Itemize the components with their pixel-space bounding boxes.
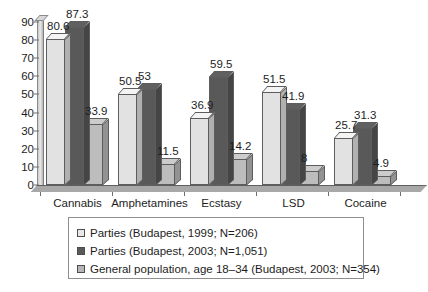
chart-legend: Parties (Budapest, 1999; N=206) Parties … bbox=[68, 217, 364, 279]
bar-side-face bbox=[372, 123, 378, 185]
bar-value-label: 50.5 bbox=[119, 75, 141, 87]
y-axis-tick-mark bbox=[34, 76, 39, 77]
bar-side-face bbox=[353, 133, 359, 185]
legend-item-parties-2003: Parties (Budapest, 2003; N=1,051) bbox=[77, 242, 363, 259]
bar bbox=[334, 138, 353, 185]
y-axis-tick-mark bbox=[34, 58, 39, 59]
bar-front-face bbox=[262, 92, 281, 185]
bar-side-face bbox=[228, 72, 234, 185]
bar-front-face bbox=[190, 118, 209, 185]
bar bbox=[190, 118, 209, 185]
bar-side-face bbox=[137, 88, 143, 185]
legend-label-1: Parties (Budapest, 1999; N=206) bbox=[90, 227, 258, 239]
x-axis-category-label: Cocaine bbox=[306, 197, 426, 209]
bar-value-label: 33.9 bbox=[85, 105, 107, 117]
bar bbox=[262, 92, 281, 185]
y-axis-tick-mark bbox=[34, 94, 39, 95]
bar bbox=[46, 39, 65, 185]
legend-item-general-population: General population, age 18–34 (Budapest,… bbox=[77, 260, 363, 277]
legend-item-parties-1999: Parties (Budapest, 1999; N=206) bbox=[77, 224, 363, 241]
bar-side-face bbox=[209, 113, 215, 185]
bar-front-face bbox=[334, 138, 353, 185]
y-axis-tick-mark bbox=[34, 40, 39, 41]
bar-value-label: 87.3 bbox=[66, 8, 88, 20]
bar-value-label: 59.5 bbox=[210, 58, 232, 70]
bar-side-face bbox=[300, 104, 306, 185]
bar-front-face bbox=[46, 39, 65, 185]
bar-value-label: 4.9 bbox=[373, 157, 389, 169]
bar-side-face bbox=[247, 154, 253, 185]
bar-value-label: 14.2 bbox=[229, 140, 251, 152]
y-axis-tick-mark bbox=[34, 22, 39, 23]
bar-chart-plot-area: 9080706050403020100 CannabisAmphetamines… bbox=[0, 0, 428, 210]
bar-side-face bbox=[156, 84, 162, 185]
chart-screenshot: 9080706050403020100 CannabisAmphetamines… bbox=[0, 0, 428, 292]
x-axis-baseline bbox=[37, 185, 421, 186]
bar-value-label: 11.5 bbox=[157, 145, 179, 157]
legend-label-2: Parties (Budapest, 2003; N=1,051) bbox=[90, 245, 267, 257]
bar-side-face bbox=[65, 34, 71, 185]
bar-side-face bbox=[103, 118, 109, 185]
chart-floor-band bbox=[31, 185, 427, 192]
y-axis-tick-mark bbox=[34, 112, 39, 113]
y-axis-tick-mark bbox=[34, 166, 39, 167]
bar-front-face bbox=[118, 94, 137, 185]
legend-swatch-2 bbox=[77, 247, 85, 255]
legend-swatch-3 bbox=[77, 265, 85, 273]
y-axis-tick-mark bbox=[34, 130, 39, 131]
bar-value-label: 41.9 bbox=[282, 90, 304, 102]
bar bbox=[118, 94, 137, 185]
bar-value-label: 8 bbox=[301, 152, 307, 164]
bar-value-label: 51.5 bbox=[263, 73, 285, 85]
legend-swatch-1 bbox=[77, 229, 85, 237]
bar-value-label: 80.6 bbox=[47, 20, 69, 32]
bar-value-label: 25.7 bbox=[335, 119, 357, 131]
bar-side-face bbox=[84, 21, 90, 185]
legend-label-3: General population, age 18–34 (Budapest,… bbox=[90, 263, 380, 275]
bar-value-label: 36.9 bbox=[191, 99, 213, 111]
y-axis-tick-mark bbox=[34, 148, 39, 149]
